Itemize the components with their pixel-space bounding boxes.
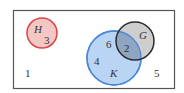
intersection-k-g-value: 2 [124, 42, 130, 54]
outside-value-5: 5 [154, 67, 160, 79]
set-h-circle [27, 18, 57, 48]
set-h-label: H [33, 23, 43, 35]
set-k-value-6: 6 [106, 38, 112, 50]
set-h-value: 3 [44, 34, 50, 46]
venn-diagram: H 3 6 2 G 4 K 1 5 [0, 0, 184, 93]
outside-value-1: 1 [25, 67, 31, 79]
set-g-label: G [139, 29, 147, 41]
set-k-value-4: 4 [94, 55, 100, 67]
set-k-label: K [109, 67, 118, 79]
